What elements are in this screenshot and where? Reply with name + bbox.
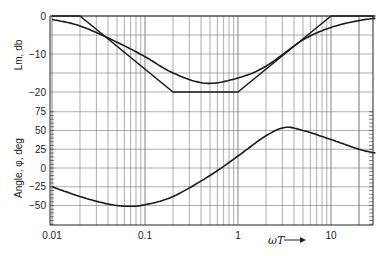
angle-tick-label: 25 bbox=[35, 144, 47, 155]
x-tick-label: 0.01 bbox=[42, 230, 62, 241]
angle-tick-label: −50 bbox=[29, 200, 46, 211]
x-tick-label: 1 bbox=[235, 230, 241, 241]
lm-tick-label: 0 bbox=[40, 11, 46, 22]
bode-plot: 0−10−207550250−25−500.010.1110 Lm, db An… bbox=[0, 0, 385, 256]
plot-frame bbox=[50, 16, 373, 225]
x-axis-label: ωT bbox=[268, 234, 286, 247]
angle-tick-label: 50 bbox=[35, 125, 47, 136]
x-axis-arrow-icon bbox=[284, 237, 306, 243]
x-axis-label-text: ωT bbox=[268, 234, 286, 247]
angle-tick-label: −25 bbox=[29, 181, 46, 192]
lm-axis-label: Lm, db bbox=[13, 39, 24, 70]
x-tick-label: 10 bbox=[325, 230, 337, 241]
grid-lines bbox=[50, 16, 373, 225]
x-tick-label: 0.1 bbox=[138, 230, 152, 241]
angle-tick-label: 75 bbox=[35, 106, 47, 117]
angle-tick-label: 0 bbox=[40, 163, 46, 174]
lm-tick-label: −20 bbox=[29, 87, 46, 98]
angle-axis-label: Angle, φ, deg bbox=[13, 138, 24, 198]
lm-tick-label: −10 bbox=[29, 49, 46, 60]
